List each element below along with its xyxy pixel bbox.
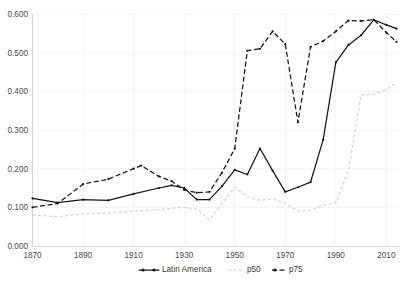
series-line-latin-america	[33, 20, 397, 203]
data-point-marker	[360, 34, 362, 36]
x-axis-tick-labels: 18701890191019301950197019902010	[23, 251, 396, 260]
legend-label: p75	[289, 265, 303, 274]
data-point-marker	[373, 19, 375, 21]
legend-item-latin-america[interactable]: Latin America	[139, 265, 212, 274]
data-point-marker	[133, 168, 135, 170]
data-point-marker	[246, 50, 248, 52]
y-tick-label: 0.500	[8, 49, 29, 58]
line-chart: 0.0000.1000.2000.3000.4000.5000.600 1870…	[0, 0, 405, 285]
chart-figure: 0.0000.1000.2000.3000.4000.5000.600 1870…	[0, 0, 405, 285]
data-point-marker	[272, 30, 274, 32]
data-point-marker	[322, 40, 324, 42]
data-point-marker	[309, 181, 311, 183]
y-axis-tick-labels: 0.0000.1000.2000.3000.4000.5000.600	[8, 10, 29, 251]
data-point-marker	[259, 147, 261, 149]
data-point-marker	[335, 61, 337, 63]
data-point-marker	[234, 169, 236, 171]
data-point-marker	[107, 178, 109, 180]
data-point-marker	[347, 19, 349, 21]
chart-legend: Latin Americap50p75	[139, 265, 303, 274]
y-tick-label: 0.200	[8, 165, 29, 174]
x-tick-label: 1970	[276, 251, 295, 260]
data-point-marker	[385, 24, 387, 26]
y-tick-label: 0.400	[8, 87, 29, 96]
data-point-marker	[196, 199, 198, 201]
data-point-marker	[335, 30, 337, 32]
data-point-marker	[133, 193, 135, 195]
legend-label: p50	[247, 265, 261, 274]
x-tick-label: 1930	[175, 251, 194, 260]
legend-item-p75[interactable]: p75	[272, 265, 303, 274]
legend-item-p50[interactable]: p50	[228, 265, 261, 274]
data-point-marker	[82, 199, 84, 201]
x-tick-label: 1910	[124, 251, 143, 260]
data-point-marker	[196, 192, 198, 194]
data-point-marker	[170, 180, 172, 182]
data-point-marker	[158, 175, 160, 177]
x-tick-label: 1950	[226, 251, 245, 260]
data-point-marker	[57, 202, 59, 204]
data-series-layer	[31, 19, 397, 220]
data-point-marker	[360, 20, 362, 22]
data-point-marker	[297, 121, 299, 123]
data-point-marker	[347, 44, 349, 46]
x-tick-label: 1990	[327, 251, 346, 260]
data-point-marker	[107, 199, 109, 201]
series-latin-america	[31, 19, 397, 204]
x-tick-label: 2010	[377, 251, 396, 260]
data-point-marker	[158, 187, 160, 189]
data-point-marker	[284, 43, 286, 45]
data-point-marker	[183, 187, 185, 189]
legend-label: Latin America	[162, 265, 212, 274]
y-tick-label: 0.600	[8, 10, 29, 19]
data-point-marker	[385, 31, 387, 33]
data-point-marker	[297, 186, 299, 188]
y-tick-label: 0.100	[8, 203, 29, 212]
data-point-marker	[272, 170, 274, 172]
data-point-marker	[82, 183, 84, 185]
series-p75	[31, 19, 397, 209]
y-tick-label: 0.300	[8, 126, 29, 135]
data-point-marker	[208, 199, 210, 201]
data-point-marker	[140, 164, 142, 166]
legend-marker	[273, 268, 276, 271]
data-point-marker	[246, 173, 248, 175]
data-point-marker	[183, 189, 185, 191]
data-point-marker	[31, 197, 33, 199]
legend-marker	[152, 268, 155, 271]
legend-marker	[141, 268, 144, 271]
data-point-marker	[221, 171, 223, 173]
x-tick-label: 1890	[74, 251, 93, 260]
data-point-marker	[395, 41, 397, 43]
x-tick-label: 1870	[23, 251, 42, 260]
data-point-marker	[221, 185, 223, 187]
data-point-marker	[208, 191, 210, 193]
data-point-marker	[259, 48, 261, 50]
data-point-marker	[170, 184, 172, 186]
data-point-marker	[309, 46, 311, 48]
data-point-marker	[395, 28, 397, 30]
data-point-marker	[31, 206, 33, 208]
data-point-marker	[234, 147, 236, 149]
data-point-marker	[284, 191, 286, 193]
data-point-marker	[322, 139, 324, 141]
series-line-p75	[33, 20, 397, 208]
